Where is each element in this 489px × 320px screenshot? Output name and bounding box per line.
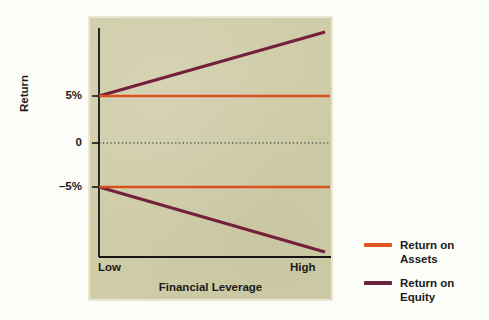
y-axis-tick-label-5pct: 5% — [42, 90, 82, 102]
legend-label-line1: Return on — [400, 276, 454, 290]
legend-swatch-return-on-equity — [364, 281, 392, 285]
legend-label-line2: Assets — [400, 252, 454, 266]
x-axis-title: Financial Leverage — [88, 281, 333, 293]
y-axis-tick-label-neg5pct: –5% — [42, 181, 82, 193]
x-axis-tick-label-high: High — [290, 261, 316, 273]
legend-label-return-on-equity: Return on Equity — [400, 276, 454, 304]
chart-legend: Return on Assets Return on Equity — [364, 238, 486, 314]
y-axis-tick-label-zero: 0 — [42, 137, 82, 149]
y-axis-title: Return — [18, 75, 30, 112]
legend-item-return-on-assets: Return on Assets — [364, 238, 486, 266]
series-line-return-on-equity-good — [99, 32, 325, 96]
x-axis-tick-label-low: Low — [98, 261, 121, 273]
legend-label-line1: Return on — [400, 238, 454, 252]
legend-swatch-return-on-assets — [364, 243, 392, 247]
legend-label-line2: Equity — [400, 290, 454, 304]
legend-label-return-on-assets: Return on Assets — [400, 238, 454, 266]
chart-figure: 5% 0 –5% Return Low High Financial Lever… — [0, 0, 489, 320]
legend-item-return-on-equity: Return on Equity — [364, 276, 486, 304]
series-line-return-on-equity-bad — [99, 187, 325, 252]
